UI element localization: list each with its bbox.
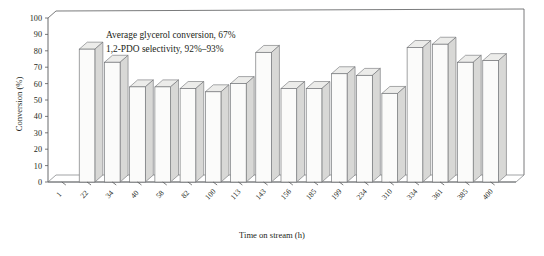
bar xyxy=(231,77,255,182)
bar xyxy=(432,37,456,182)
y-tick-label: 100 xyxy=(30,14,42,23)
y-tick-label: 80 xyxy=(34,47,42,56)
bar xyxy=(130,80,154,182)
bar xyxy=(256,45,280,182)
y-axis-title: Conversion (%) xyxy=(14,77,24,132)
y-tick-label: 70 xyxy=(34,63,42,72)
y-tick-label: 90 xyxy=(34,30,42,39)
chart-figure: 0102030405060708090100 12234405882100113… xyxy=(0,0,544,256)
bar xyxy=(306,82,330,182)
bar xyxy=(180,82,204,182)
y-tick-label: 30 xyxy=(34,129,42,138)
x-axis-title: Time on stream (h) xyxy=(239,230,305,240)
y-tick-label: 0 xyxy=(38,178,42,187)
bar xyxy=(458,55,482,182)
bar xyxy=(483,54,507,182)
y-tick-label: 20 xyxy=(34,145,42,154)
y-tick-label: 60 xyxy=(34,80,42,89)
chart-canvas: 0102030405060708090100 12234405882100113… xyxy=(0,0,544,256)
y-tick-label: 40 xyxy=(34,112,42,121)
bar xyxy=(407,41,431,182)
bar xyxy=(357,68,381,182)
bar xyxy=(205,85,229,182)
y-tick-label: 10 xyxy=(34,162,42,171)
bar xyxy=(104,55,128,182)
bar xyxy=(281,82,305,182)
y-tick-label: 50 xyxy=(34,96,42,105)
bar xyxy=(331,67,355,182)
annotation-pdo-selectivity: 1,2-PDO selectivity, 92%–93% xyxy=(106,44,224,54)
bar xyxy=(155,80,179,182)
bar xyxy=(382,86,406,182)
bar xyxy=(79,42,103,182)
annotation-average-conversion: Average glycerol conversion, 67% xyxy=(106,30,236,40)
